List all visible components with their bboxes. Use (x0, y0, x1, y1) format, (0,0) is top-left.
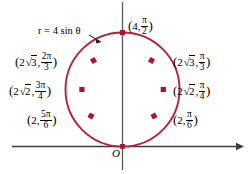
angle-fraction: 5π6 (40, 110, 52, 131)
x-axis-arrowhead (236, 143, 244, 150)
square-root: √2 (19, 86, 32, 97)
fraction-denominator: 3 (41, 62, 53, 73)
point-marker-3pi4 (79, 87, 84, 92)
paren-close: ) (193, 112, 197, 127)
radicand: 2 (25, 84, 32, 97)
fraction-numerator: π (199, 52, 206, 62)
point-marker-pi3 (148, 57, 155, 64)
point-label-pi3: (2√3,π3) (173, 52, 210, 73)
angle-fraction: 2π3 (41, 52, 53, 73)
angle-fraction: 3π4 (35, 81, 47, 102)
point-marker-2pi3 (90, 57, 97, 64)
polar-graph-figure: r = 4 sin θ (4,π2) (2√3,2π3) (2√2,3π4) (… (0, 0, 249, 174)
paren-close: ) (206, 54, 210, 69)
point-label-5pi6: (2,5π6) (27, 110, 56, 131)
point-marker-5pi6 (87, 112, 94, 119)
point-marker-pole (120, 144, 125, 149)
radicand: 2 (189, 84, 196, 97)
fraction-denominator: 4 (35, 91, 47, 102)
paren-close: ) (47, 83, 51, 98)
square-root: √3 (25, 57, 38, 68)
origin-label: O (112, 148, 120, 159)
fraction-numerator: π (199, 81, 206, 91)
fraction-numerator: 3π (35, 81, 47, 91)
paren-close: ) (52, 112, 56, 127)
point-marker-pi4 (161, 87, 166, 92)
radicand: 3 (189, 55, 196, 68)
paren-close: ) (53, 54, 57, 69)
paren-close: ) (206, 83, 210, 98)
fraction-denominator: 4 (199, 91, 206, 102)
fraction-numerator: 5π (40, 110, 52, 120)
fraction-numerator: π (186, 110, 193, 120)
point-label-pi6: (2,π6) (173, 110, 198, 131)
point-label-pi4: (2√2,π4) (173, 81, 210, 102)
fraction-denominator: 3 (199, 62, 206, 73)
point-marker-top (120, 30, 125, 35)
angle-fraction: π6 (186, 110, 193, 131)
angle-fraction: π3 (199, 52, 206, 73)
point-label-2pi3: (2√3,2π3) (15, 52, 57, 73)
radicand: 3 (31, 55, 38, 68)
fraction-denominator: 6 (40, 120, 52, 131)
fraction-denominator: 2 (141, 26, 148, 37)
fraction-numerator: π (141, 16, 148, 26)
point-label-3pi4: (2√2,3π4) (9, 81, 51, 102)
square-root: √2 (183, 86, 196, 97)
fraction-denominator: 6 (186, 120, 193, 131)
angle-fraction: π4 (199, 81, 206, 102)
paren-close: ) (148, 18, 152, 33)
point-label-top: (4,π2) (128, 16, 153, 37)
equation-label: r = 4 sin θ (38, 26, 80, 37)
square-root: √3 (183, 57, 196, 68)
point-marker-pi6 (150, 112, 157, 119)
angle-fraction: π2 (141, 16, 148, 37)
fraction-numerator: 2π (41, 52, 53, 62)
